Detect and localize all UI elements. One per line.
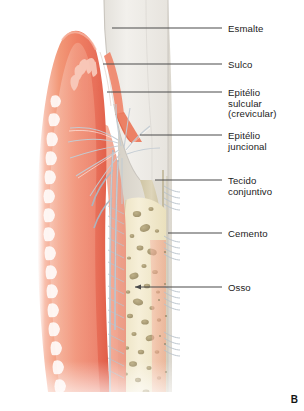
label-epitelio-juncional: Epitélio juncional (228, 131, 267, 152)
anatomical-figure: EsmalteSulcoEpitélio sulcular (crevicula… (0, 0, 304, 411)
label-cemento: Cemento (228, 229, 268, 240)
figure-letter: B (291, 394, 298, 405)
label-osso: Osso (228, 283, 251, 294)
label-epitelio-sulcular: Epitélio sulcular (crevicular) (228, 88, 277, 120)
label-sulco: Sulco (228, 60, 253, 71)
label-esmalte: Esmalte (228, 24, 263, 35)
label-tecido-conjuntivo: Tecido conjuntivo (228, 176, 272, 197)
periodontium-illustration (0, 0, 304, 411)
